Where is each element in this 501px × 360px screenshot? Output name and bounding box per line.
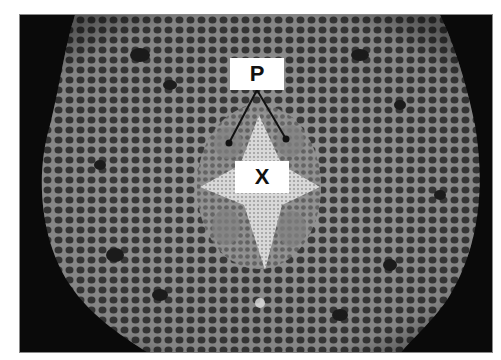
label-xylem: X <box>235 161 289 193</box>
phloem-region <box>278 211 306 247</box>
micrograph-figure: P X <box>19 14 493 353</box>
phloem-region <box>276 125 304 157</box>
label-p-text: P <box>250 61 265 87</box>
label-x-text: X <box>255 164 270 190</box>
label-phloem: P <box>230 58 284 90</box>
phloem-region <box>212 209 240 245</box>
phloem-region <box>214 127 242 159</box>
